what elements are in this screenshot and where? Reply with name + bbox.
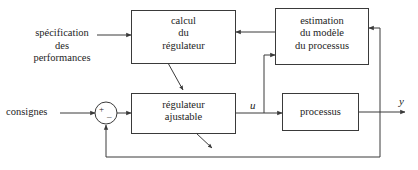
arrow-calcul-to-regulateur-adaptation	[168, 63, 183, 90]
label-signal-u: u	[250, 99, 256, 111]
summing-junction-minus-sign: _	[107, 110, 112, 119]
block-regulateur-ajustable	[132, 94, 236, 134]
block-processus	[283, 94, 359, 131]
label-signal-y: y	[399, 95, 404, 107]
summing-junction-plus-sign: +	[99, 105, 104, 114]
arrow-u-branch-to-estimation	[264, 55, 275, 113]
label-consignes: consignes	[6, 106, 58, 119]
block-diagram-canvas	[0, 0, 418, 170]
block-calcul-regulateur	[132, 11, 236, 64]
arrow-y-feedback-to-summing-junction	[106, 112, 380, 157]
arrow-y-branch-to-estimation	[369, 28, 380, 112]
block-estimation-modele	[276, 9, 369, 65]
arrow-regulateur-adaptation-out	[196, 133, 212, 148]
label-specification-performances: spécification des performances	[6, 27, 118, 65]
